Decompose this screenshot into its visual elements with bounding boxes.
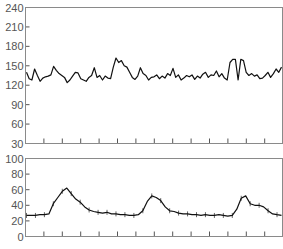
y-tick-label: 40 <box>11 199 23 211</box>
y-tick-label: 100 <box>5 153 23 165</box>
chart-canvas: 240210180150120906030 100806040200 <box>0 0 283 249</box>
y-tick-label: 30 <box>11 138 23 150</box>
y-tick-label: 60 <box>11 118 23 130</box>
y-tick-label: 80 <box>11 168 23 180</box>
top-chart: 240210180150120906030 <box>5 2 282 150</box>
y-tick-label: 180 <box>5 40 23 52</box>
bottom-trace-line <box>27 188 282 216</box>
top-plot-frame <box>26 8 283 144</box>
top-x-axis <box>44 139 265 144</box>
y-tick-label: 0 <box>17 231 23 243</box>
y-tick-label: 20 <box>11 215 23 227</box>
y-tick-label: 210 <box>5 21 23 33</box>
y-tick-label: 240 <box>5 2 23 14</box>
y-tick-label: 120 <box>5 79 23 91</box>
top-trace-line <box>27 58 282 83</box>
y-tick-label: 150 <box>5 60 23 72</box>
y-tick-label: 60 <box>11 184 23 196</box>
bottom-chart: 100806040200 <box>5 153 282 243</box>
bottom-x-axis <box>44 232 265 237</box>
y-tick-label: 90 <box>11 99 23 111</box>
